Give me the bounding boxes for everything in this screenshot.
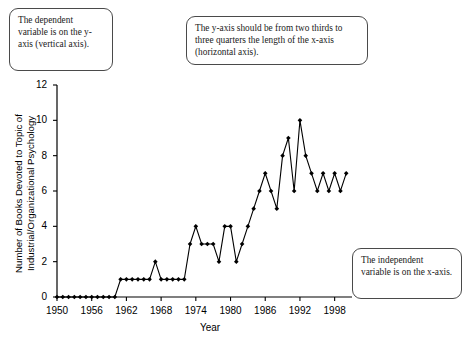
data-point [228, 224, 233, 229]
data-point [240, 242, 245, 247]
chart-canvas [0, 0, 471, 344]
data-point [211, 242, 216, 247]
figure: The dependent variable is on the y-axis … [0, 0, 471, 344]
data-point [84, 295, 89, 300]
data-point [124, 277, 129, 282]
x-tick-label: 1998 [315, 305, 355, 316]
data-point [332, 171, 337, 176]
data-point [303, 153, 308, 158]
data-point [107, 295, 112, 300]
data-point [55, 295, 60, 300]
y-tick-label: 4 [25, 220, 47, 231]
y-tick-label: 0 [25, 291, 47, 302]
axes [57, 85, 352, 297]
data-line [57, 120, 346, 297]
data-point [89, 295, 94, 300]
data-point [321, 171, 326, 176]
data-point [78, 295, 83, 300]
data-point [101, 295, 106, 300]
data-point [141, 277, 146, 282]
y-tick-label: 12 [25, 79, 47, 90]
line-chart: Number of Books Devoted to Topic of Indu… [0, 0, 471, 344]
data-point [292, 189, 297, 194]
data-point [182, 277, 187, 282]
data-point [269, 189, 274, 194]
data-point [170, 277, 175, 282]
data-point [194, 224, 199, 229]
data-point [72, 295, 77, 300]
data-point [315, 189, 320, 194]
data-point [246, 224, 251, 229]
data-point [95, 295, 100, 300]
data-point [199, 242, 204, 247]
data-point [113, 295, 118, 300]
data-point [309, 171, 314, 176]
data-point [275, 206, 280, 211]
data-point [60, 295, 65, 300]
data-point [298, 118, 303, 123]
data-point [153, 259, 158, 264]
data-point [205, 242, 210, 247]
data-point [159, 277, 164, 282]
data-point [251, 206, 256, 211]
y-tick-label: 8 [25, 150, 47, 161]
data-point [130, 277, 135, 282]
data-point [136, 277, 141, 282]
data-point [344, 171, 349, 176]
data-point [257, 189, 262, 194]
data-point [286, 136, 291, 141]
data-point [222, 224, 227, 229]
data-point [66, 295, 71, 300]
data-point [263, 171, 268, 176]
data-point [280, 153, 285, 158]
x-axis-label: Year [140, 322, 280, 333]
data-point [147, 277, 152, 282]
data-point [165, 277, 170, 282]
data-point [188, 242, 193, 247]
y-tick-label: 6 [25, 185, 47, 196]
data-point [338, 189, 343, 194]
y-tick-label: 2 [25, 256, 47, 267]
data-point [176, 277, 181, 282]
data-point [234, 259, 239, 264]
y-tick-label: 10 [25, 114, 47, 125]
data-point [217, 259, 222, 264]
data-point [118, 277, 123, 282]
data-point [327, 189, 332, 194]
